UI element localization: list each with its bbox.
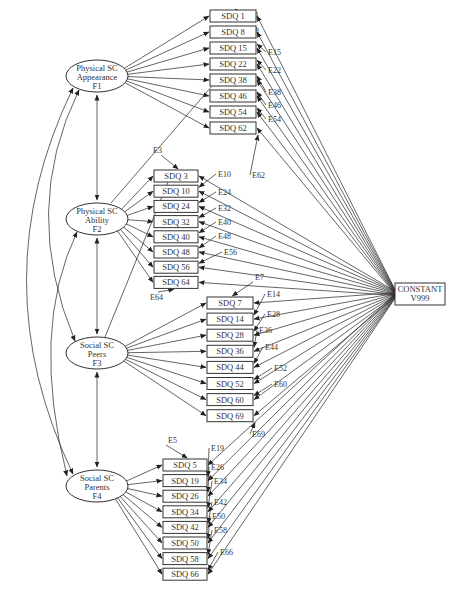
error-term-label: E10 (218, 170, 231, 179)
error-term-label: E56 (224, 248, 237, 257)
error-term-label: E26 (211, 463, 224, 472)
loading-path (125, 32, 209, 70)
intercept-path (199, 282, 395, 295)
indicator-label: SDQ 24 (162, 201, 190, 211)
indicator-box: SDQ 19 (163, 475, 207, 487)
factor-label: F3 (93, 358, 102, 368)
indicator-label: SDQ 42 (171, 522, 199, 532)
error-term-label: E19 (211, 444, 224, 453)
loading-path (127, 64, 209, 74)
indicator-box: SDQ 58 (163, 553, 207, 565)
error-term-label: E58 (214, 526, 227, 535)
error-path (254, 330, 257, 347)
loading-path (127, 79, 209, 96)
indicator-box: SDQ 54 (210, 106, 256, 118)
loading-path (123, 361, 206, 416)
error-term-label: E32 (218, 204, 231, 213)
error-term-label: E48 (218, 232, 231, 241)
intercept-path (199, 237, 395, 294)
indicator-box: SDQ 14 (207, 313, 253, 325)
intercept-path (257, 64, 395, 291)
error-term-label: E22 (268, 66, 281, 75)
indicator-label: SDQ 66 (171, 569, 199, 579)
intercept-path (257, 48, 395, 291)
error-term-label: E7 (255, 273, 264, 282)
error-path (199, 192, 216, 202)
error-path (166, 445, 187, 458)
indicator-label: SDQ 8 (221, 27, 244, 37)
loading-path (121, 176, 153, 210)
error-term-label: E52 (274, 364, 287, 373)
error-path (254, 294, 265, 315)
error-term-label: E66 (220, 548, 233, 557)
indicator-label: SDQ 60 (216, 395, 244, 405)
error-term-label: E50 (212, 512, 225, 521)
loading-path (127, 481, 162, 485)
indicator-label: SDQ 52 (216, 379, 244, 389)
loading-path (117, 231, 153, 283)
indicator-label: SDQ 40 (162, 232, 190, 242)
factor-f4: Social SCParentsF4 (66, 470, 128, 502)
indicator-box: SDQ 1 (210, 10, 256, 22)
indicator-label: SDQ 46 (219, 91, 247, 101)
indicator-box: SDQ 64 (154, 276, 198, 288)
indicator-box: SDQ 66 (163, 568, 207, 580)
indicator-label: SDQ 3 (164, 171, 187, 181)
error-term-label: E60 (274, 380, 287, 389)
indicator-box: SDQ 62 (210, 122, 256, 134)
loading-path (127, 351, 206, 352)
indicator-box: SDQ 60 (207, 394, 253, 406)
error-term-label: E69 (252, 430, 265, 439)
error-path (232, 282, 253, 296)
indicator-label: SDQ 26 (171, 491, 199, 501)
indicator-label: SDQ 10 (162, 186, 190, 196)
indicator-box: SDQ 48 (154, 246, 198, 258)
loading-path (126, 224, 153, 237)
indicator-box: SDQ 46 (210, 90, 256, 102)
indicator-box: SDQ 44 (207, 361, 253, 373)
indicator-box: SDQ 36 (207, 345, 253, 357)
indicator-label: SDQ 54 (219, 107, 247, 117)
error-term-label: E28 (267, 310, 280, 319)
loading-path (123, 494, 162, 527)
loading-path (127, 77, 209, 80)
error-term-label: E5 (168, 436, 177, 445)
indicator-box: SDQ 28 (207, 329, 253, 341)
indicator-box: SDQ 69 (207, 410, 253, 422)
error-term-label: E40 (218, 218, 231, 227)
intercept-path (199, 267, 395, 295)
indicator-label: SDQ 7 (218, 298, 241, 308)
loading-path (126, 465, 162, 481)
indicator-box: SDQ 7 (207, 297, 253, 309)
indicator-box: SDQ 38 (210, 74, 256, 86)
loading-path (120, 496, 162, 543)
factor-f3: Social SCPeersF3 (66, 337, 128, 369)
intercept-path (257, 112, 395, 293)
indicator-label: SDQ 38 (219, 75, 247, 85)
constant-box: CONSTANTV999 (395, 283, 445, 305)
loading-path (125, 303, 206, 347)
covariance-f1-f4 (27, 88, 74, 474)
error-term-label: E14 (267, 290, 280, 299)
indicator-label: SDQ 5 (173, 460, 196, 470)
error-term-label: E46 (268, 101, 281, 110)
indicator-label: SDQ 28 (216, 330, 244, 340)
loading-path (125, 83, 209, 128)
error-term-label: E34 (214, 477, 227, 486)
factor-label: F1 (93, 81, 102, 91)
indicator-box: SDQ 24 (154, 200, 198, 212)
error-term-label: E3 (153, 146, 162, 155)
error-term-label: E36 (259, 326, 272, 335)
factor-f2: Physical SCAbilityF2 (66, 203, 128, 235)
error-path (250, 135, 258, 175)
error-term-label: E38 (268, 88, 281, 97)
constant-label: V999 (411, 293, 430, 303)
indicator-label: SDQ 22 (219, 59, 247, 69)
indicator-label: SDQ 56 (162, 262, 190, 272)
error-term-label: E44 (265, 343, 278, 352)
intercept-path (257, 80, 395, 292)
error-term-label: E24 (218, 188, 231, 197)
error-path (158, 289, 174, 292)
factor-f1: Physical SCAppearanceF1 (66, 60, 128, 92)
loading-path (127, 220, 153, 222)
